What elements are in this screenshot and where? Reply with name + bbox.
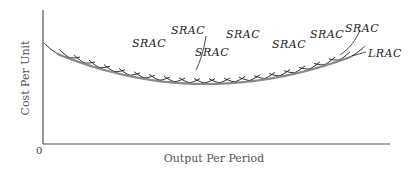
srac-label: SRAC (171, 24, 205, 37)
lrac-leader-line (352, 52, 366, 56)
x-axis-title: Output Per Period (164, 152, 265, 165)
lrac-label: LRAC (367, 47, 402, 60)
y-axis-title: Cost Per Unit (19, 40, 32, 116)
srac-label: SRAC (272, 38, 306, 51)
srac-label: SRAC (345, 22, 379, 35)
origin-label: 0 (36, 145, 42, 156)
srac-label: SRAC (195, 46, 229, 59)
cost-curves-chart: 0 Cost Per Unit Output Per Period SRAC S… (0, 0, 408, 177)
srac-label: SRAC (310, 28, 344, 41)
srac-label: SRAC (226, 28, 260, 41)
srac-label: SRAC (132, 37, 166, 50)
